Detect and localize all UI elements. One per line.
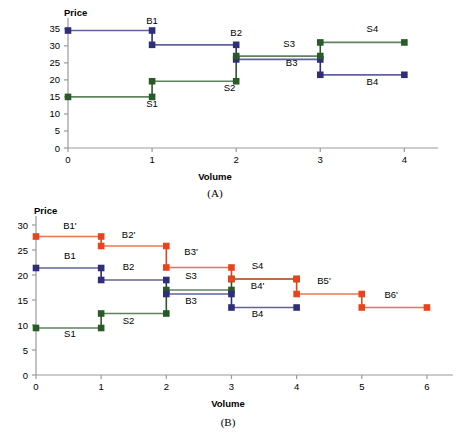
y-axis-label: Price [64,7,87,18]
x-tick-label: 0 [33,381,38,392]
x-axis-label: Volume [211,398,245,409]
data-point-marker [163,277,170,284]
series-annotation-B2: B2 [230,27,242,38]
y-tick-label: 20 [49,74,60,85]
y-tick-label: 15 [49,91,60,102]
series-annotation-B3p: B3' [184,246,198,257]
series-annotation-S3: S3 [185,270,197,281]
data-point-marker [98,265,105,272]
series-annotation-B4: B4 [252,308,264,319]
data-point-marker [233,42,240,49]
x-axis-label: Volume [198,171,232,182]
series-annotation-B6p: B6' [384,289,398,300]
data-point-marker [233,53,240,60]
chart-panel-a: 0123405101520253035B1S1B2S2B3S3B4S4Price… [0,0,472,200]
data-point-marker [401,71,408,78]
data-point-marker [163,310,170,317]
series-annotation-B4p: B4' [251,280,265,291]
chart-b-svg: 0123456051015202530B1'B1S1B2'B2S2B3'S3B3… [0,200,472,438]
series-annotation-B3: B3 [286,57,298,68]
series-annotation-S1: S1 [64,328,76,339]
data-point-marker [33,233,40,240]
data-point-marker [228,276,235,283]
y-tick-label: 0 [55,143,60,154]
y-tick-label: 20 [17,270,28,281]
y-tick-label: 35 [49,23,60,34]
series-annotation-S3: S3 [283,38,295,49]
data-point-marker [293,276,300,283]
data-point-marker [65,94,72,101]
chart-a-svg: 0123405101520253035B1S1B2S2B3S3B4S4Price… [0,0,472,200]
x-tick-label: 3 [229,381,234,392]
x-tick-label: 2 [164,381,169,392]
series-annotation-B2p: B2' [122,229,136,240]
data-point-marker [293,304,300,311]
series-annotation-B4: B4 [367,76,379,87]
x-tick-label: 2 [234,154,239,165]
series-annotation-S1: S1 [146,98,158,109]
x-tick-label: 5 [359,381,364,392]
data-point-marker [293,291,300,298]
series-annotation-B2: B2 [123,261,135,272]
series-annotation-B5p: B5' [317,275,331,286]
y-tick-label: 0 [23,370,28,381]
data-point-marker [401,39,408,46]
y-tick-label: 25 [17,245,28,256]
data-point-marker [149,78,156,85]
x-tick-label: 1 [149,154,154,165]
x-tick-label: 0 [65,154,70,165]
data-point-marker [149,27,156,34]
data-point-marker [163,243,170,250]
series-annotation-B1: B1 [146,15,158,26]
x-tick-label: 4 [402,154,407,165]
series-annotation-B3: B3 [185,295,197,306]
y-tick-label: 15 [17,295,28,306]
series-annotation-S4: S4 [252,260,264,271]
data-point-marker [149,42,156,49]
series-annotation-B1: B1 [64,250,76,261]
data-point-marker [98,325,105,332]
series-annotation-S2: S2 [224,82,236,93]
y-tick-label: 5 [23,345,28,356]
data-point-marker [98,310,105,317]
y-tick-label: 25 [49,57,60,68]
panel-caption: (B) [221,416,236,429]
data-point-marker [358,304,365,311]
data-point-marker [98,277,105,284]
x-tick-label: 6 [424,381,429,392]
series-annotation-B1p: B1' [63,220,77,231]
y-tick-label: 30 [49,40,60,51]
chart-panel-b: 0123456051015202530B1'B1S1B2'B2S2B3'S3B3… [0,200,472,438]
data-point-marker [228,304,235,311]
data-point-marker [358,291,365,298]
y-tick-label: 10 [49,108,60,119]
data-point-marker [98,243,105,250]
y-tick-label: 5 [55,125,60,136]
data-point-marker [317,39,324,46]
data-point-marker [163,291,170,298]
data-point-marker [65,27,72,34]
x-tick-label: 3 [318,154,323,165]
figure-root: 0123405101520253035B1S1B2S2B3S3B4S4Price… [0,0,472,438]
data-point-marker [163,264,170,271]
data-point-marker [33,265,40,272]
x-tick-label: 1 [99,381,104,392]
panel-caption: (A) [207,187,223,200]
data-point-marker [317,71,324,78]
data-point-marker [98,233,105,240]
x-tick-label: 4 [294,381,299,392]
y-axis-label: Price [34,205,57,216]
data-point-marker [424,304,431,311]
series-annotation-S2: S2 [123,315,135,326]
data-point-marker [33,325,40,332]
data-point-marker [317,53,324,60]
y-tick-label: 30 [17,220,28,231]
series-annotation-S4: S4 [367,23,379,34]
data-point-marker [228,264,235,271]
y-tick-label: 10 [17,320,28,331]
data-point-marker [228,291,235,298]
